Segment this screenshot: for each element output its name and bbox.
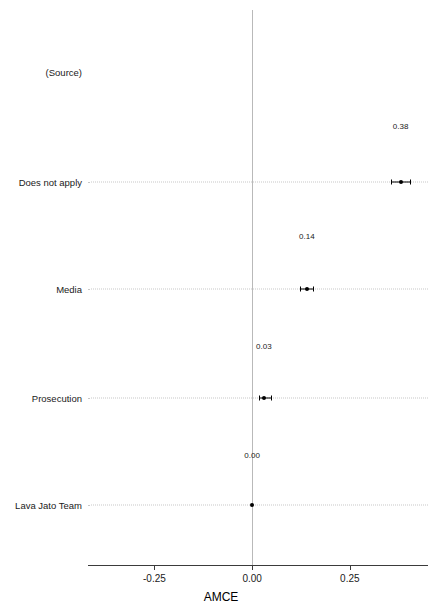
point-estimate — [399, 180, 403, 184]
confidence-interval-cap — [271, 396, 272, 401]
category-label: Lava Jato Team — [15, 500, 82, 511]
x-tick — [252, 566, 253, 570]
point-estimate — [262, 396, 266, 400]
category-label: Does not apply — [19, 177, 82, 188]
confidence-interval-cap — [391, 180, 392, 185]
x-tick-label: -0.25 — [143, 573, 166, 584]
category-label: Prosecution — [32, 393, 82, 404]
estimate-value-label: 0.00 — [244, 451, 260, 460]
x-tick — [154, 566, 155, 570]
x-tick-label: 0.25 — [340, 573, 359, 584]
row-guide-line — [88, 505, 428, 506]
group-label: (Source) — [46, 67, 82, 78]
estimate-value-label: 0.14 — [299, 232, 315, 241]
row-guide-line — [88, 398, 428, 399]
point-estimate — [250, 503, 254, 507]
estimate-value-label: 0.03 — [256, 342, 272, 351]
confidence-interval-cap — [300, 287, 301, 292]
category-label: Media — [56, 284, 82, 295]
x-tick — [350, 566, 351, 570]
x-axis-line — [88, 565, 428, 566]
estimate-value-label: 0.38 — [393, 122, 409, 131]
point-estimate — [305, 287, 309, 291]
zero-reference-line — [252, 10, 253, 565]
confidence-interval-cap — [259, 396, 260, 401]
x-axis-title: AMCE — [0, 590, 442, 604]
confidence-interval-cap — [313, 287, 314, 292]
confidence-interval-cap — [410, 180, 411, 185]
row-guide-line — [88, 182, 428, 183]
chart-container: -0.250.000.25 AMCE (Source)Does not appl… — [0, 0, 442, 609]
x-tick-label: 0.00 — [242, 573, 261, 584]
row-guide-line — [88, 289, 428, 290]
plot-panel — [88, 10, 428, 565]
